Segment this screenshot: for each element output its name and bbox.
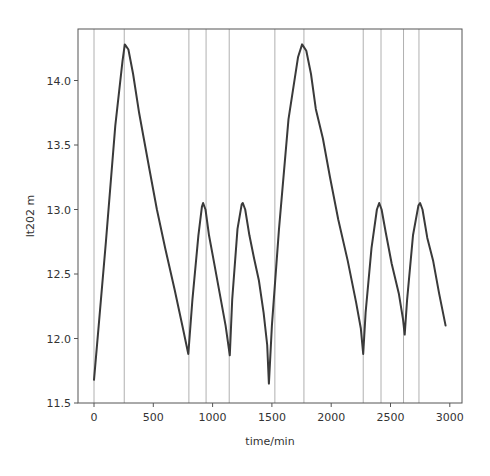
- y-tick-label: 13.0: [47, 204, 72, 217]
- y-tick-label: 12.0: [47, 333, 72, 346]
- x-axis-label: time/min: [245, 435, 294, 448]
- event-marker-lines: [94, 29, 419, 403]
- y-tick-label: 13.5: [47, 139, 72, 152]
- y-tick-label: 14.0: [47, 75, 72, 88]
- x-tick-label: 3000: [436, 411, 464, 424]
- y-tick-label: 11.5: [47, 397, 72, 410]
- x-axis: 050010001500200025003000: [91, 403, 464, 424]
- x-tick-label: 2500: [377, 411, 405, 424]
- x-tick-label: 0: [91, 411, 98, 424]
- y-axis: 11.512.012.513.013.514.0: [47, 75, 79, 411]
- y-tick-label: 12.5: [47, 268, 72, 281]
- x-tick-label: 1000: [199, 411, 227, 424]
- x-tick-label: 2000: [317, 411, 345, 424]
- x-tick-label: 500: [143, 411, 164, 424]
- y-axis-label: lt202 m: [24, 195, 37, 238]
- series-line-lt202: [94, 44, 446, 383]
- line-chart: 050010001500200025003000 11.512.012.513.…: [0, 0, 490, 476]
- x-tick-label: 1500: [258, 411, 286, 424]
